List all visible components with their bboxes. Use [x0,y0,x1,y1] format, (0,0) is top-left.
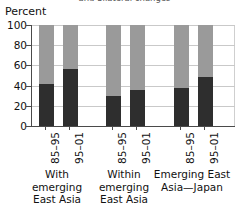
y-tick-label: 40 [1,81,27,92]
bar-4 [130,25,145,126]
bar-segment-upper [39,25,54,84]
group-caption-line: Asia—Japan [146,181,238,194]
bar-segment-upper [198,25,213,77]
y-tick-label: 60 [1,60,27,71]
y-tick-label: 20 [1,101,27,112]
plot-area [31,25,235,127]
bar-segment-lower [39,84,54,126]
bar-3 [106,25,121,126]
y-tick-mark [26,65,31,66]
bar-segment-lower [63,69,78,126]
x-tick-mark [69,126,70,130]
x-tick-mark [112,126,113,130]
group-caption-3: Emerging EastAsia—Japan [146,168,238,193]
chart-title-text: and bilateral changes [0,0,249,3]
y-tick-label: 100 [1,20,27,31]
y-axis-label: Percent [5,6,46,18]
y-tick-label: 0 [1,121,27,132]
bar-segment-lower [198,77,213,126]
y-tick-mark [26,25,31,26]
y-tick-mark [26,126,31,127]
bar-segment-upper [63,25,78,69]
x-tick-mark [136,126,137,130]
bar-segment-lower [130,90,145,126]
y-tick-mark [26,86,31,87]
x-tick-mark [45,126,46,130]
bar-5 [174,25,189,126]
y-tick-mark [26,106,31,107]
bar-6 [198,25,213,126]
bar-segment-lower [106,96,121,126]
bar-segment-upper [106,25,121,96]
y-tick-mark [26,45,31,46]
bar-segment-lower [174,88,189,126]
bar-1 [39,25,54,126]
group-caption-line: Emerging East [146,168,238,181]
bar-segment-upper [174,25,189,88]
group-caption-line: East Asia [78,193,170,206]
y-tick-label: 80 [1,40,27,51]
x-tick-mark [180,126,181,130]
bar-segment-upper [130,25,145,90]
x-tick-mark [204,126,205,130]
bar-2 [63,25,78,126]
